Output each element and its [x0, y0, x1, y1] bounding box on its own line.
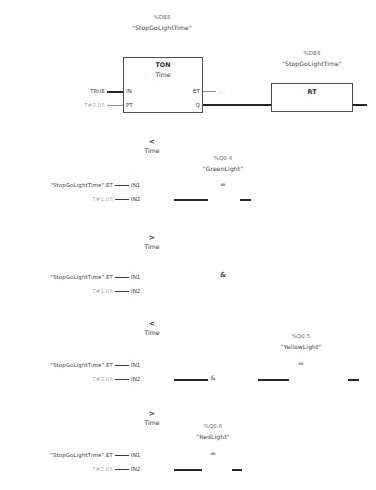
cmp3-data-type: Time	[144, 329, 159, 337]
ton-in-value[interactable]: TRUE	[90, 88, 105, 95]
cmp4-pin-in2[interactable]: IN2	[131, 466, 140, 473]
red-light-address: %Q0.6	[204, 423, 223, 430]
cmp1-pin-in2[interactable]: IN2	[131, 196, 140, 203]
wire-cmp4-in2	[115, 469, 129, 470]
ton-pin-in[interactable]: IN	[126, 88, 132, 95]
green-light-address: %Q0.4	[214, 155, 233, 162]
cmp3-operator: <	[149, 320, 155, 328]
rt-block-type: RT	[308, 88, 317, 96]
cmp1-data-type: Time	[144, 147, 159, 155]
timer-db-address: %DB8	[153, 14, 170, 21]
wire-cmp1-in1	[115, 185, 129, 186]
rt-db-name: "StopGoLightTime"	[282, 60, 342, 67]
cmp4-in2-operand[interactable]: T#2.0S	[92, 466, 113, 473]
cmp1-operator: <	[149, 138, 155, 146]
wire-red-coil-in	[174, 469, 202, 471]
and-gate-2-symbol[interactable]: &	[211, 374, 216, 381]
cmp2-in2-operand[interactable]: T#1.0S	[92, 288, 113, 295]
ton-block-subtype: Time	[155, 71, 170, 79]
ton-block-type: TON	[155, 61, 170, 69]
wire-yellow-coil-out	[348, 379, 359, 381]
red-light-coil[interactable]: =	[210, 451, 216, 458]
ton-pt-value[interactable]: T#3.0S	[84, 102, 105, 109]
ton-pin-et[interactable]: ET	[193, 88, 200, 95]
wire-cmp3-out	[174, 379, 208, 381]
wire-red-coil-out	[232, 469, 242, 471]
wire-cmp1-in2	[115, 199, 129, 200]
cmp4-pin-in1[interactable]: IN1	[131, 452, 140, 459]
cmp3-pin-in2[interactable]: IN2	[131, 376, 140, 383]
wire-ton-et	[203, 91, 216, 92]
cmp2-operator: >	[149, 234, 155, 242]
yellow-light-coil[interactable]: =	[298, 361, 304, 368]
wire-cmp3-in2	[115, 379, 129, 380]
cmp1-in1-operand[interactable]: "StopGoLightTime".ET	[50, 182, 113, 189]
green-light-coil[interactable]: =	[220, 182, 226, 189]
wire-yellow-coil-in	[258, 379, 289, 381]
wire-rt-out	[353, 104, 367, 106]
wire-green-coil-out	[240, 199, 251, 201]
wire-cmp2-in1	[115, 277, 129, 278]
fbd-network-canvas: %DB8 "StopGoLightTime" TON Time IN PT ET…	[0, 0, 376, 490]
timer-db-name: "StopGoLightTime"	[132, 24, 192, 31]
wire-ton-in	[107, 91, 123, 93]
cmp2-in1-operand[interactable]: "StopGoLightTime".ET	[50, 274, 113, 281]
cmp3-in1-operand[interactable]: "StopGoLightTime".ET	[50, 362, 113, 369]
wire-green-coil-in	[174, 199, 208, 201]
green-light-name: "GreenLight"	[203, 165, 243, 172]
cmp3-pin-in1[interactable]: IN1	[131, 362, 140, 369]
ton-et-value: ...	[218, 88, 226, 94]
cmp1-pin-in1[interactable]: IN1	[131, 182, 140, 189]
wire-cmp2-in2	[115, 291, 129, 292]
cmp4-operator: >	[149, 410, 155, 418]
cmp2-pin-in2[interactable]: IN2	[131, 288, 140, 295]
cmp2-data-type: Time	[144, 243, 159, 251]
yellow-light-name: "YellowLight"	[281, 343, 322, 350]
wire-cmp3-in1	[115, 365, 129, 366]
ton-pin-pt[interactable]: PT	[126, 102, 133, 109]
rt-db-address: %DB8	[303, 50, 320, 57]
cmp4-in1-operand[interactable]: "StopGoLightTime".ET	[50, 452, 113, 459]
yellow-light-address: %Q0.5	[292, 333, 311, 340]
cmp2-pin-in1[interactable]: IN1	[131, 274, 140, 281]
wire-cmp4-in1	[115, 455, 129, 456]
cmp3-in2-operand[interactable]: T#2.0S	[92, 376, 113, 383]
wire-ton-pt	[107, 105, 123, 106]
ton-pin-q[interactable]: Q	[196, 102, 200, 109]
and-gate-1-symbol[interactable]: &	[220, 272, 226, 279]
wire-ton-q-to-rt	[203, 104, 271, 106]
red-light-name: "RedLight"	[196, 433, 229, 440]
cmp4-data-type: Time	[144, 419, 159, 427]
cmp1-in2-operand[interactable]: T#1.0S	[92, 196, 113, 203]
